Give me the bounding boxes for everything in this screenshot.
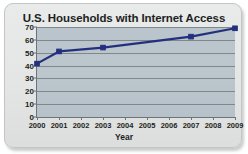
data-point-marker xyxy=(189,34,194,39)
x-tick-mark xyxy=(59,117,60,120)
y-tick-label: 60 xyxy=(25,35,34,44)
y-tick-label: 70 xyxy=(25,23,34,32)
x-tick-mark xyxy=(213,117,214,120)
data-point-marker xyxy=(233,26,238,31)
y-tick-label: 50 xyxy=(25,48,34,57)
x-tick-mark xyxy=(235,117,236,120)
y-tick-label: 40 xyxy=(25,61,34,70)
x-tick-mark xyxy=(103,117,104,120)
x-tick-label: 2000 xyxy=(29,121,46,130)
x-tick-label: 2007 xyxy=(183,121,200,130)
x-tick-label: 2005 xyxy=(139,121,156,130)
series-polyline xyxy=(37,28,235,63)
chart-title: U.S. Households with Internet Access xyxy=(5,12,243,24)
x-tick-label: 2003 xyxy=(95,121,112,130)
y-tick-label: 30 xyxy=(25,74,34,83)
y-tick-label: 20 xyxy=(25,87,34,96)
data-point-marker xyxy=(57,49,62,54)
x-tick-mark xyxy=(125,117,126,120)
x-tick-label: 2006 xyxy=(161,121,178,130)
data-point-marker xyxy=(35,61,40,66)
series-line-internet-access xyxy=(37,27,235,117)
x-tick-label: 2009 xyxy=(227,121,244,130)
x-tick-label: 2001 xyxy=(51,121,68,130)
series-markers xyxy=(35,26,238,66)
x-tick-mark xyxy=(147,117,148,120)
x-tick-mark xyxy=(37,117,38,120)
x-axis-label: Year xyxy=(5,132,243,142)
x-tick-label: 2008 xyxy=(205,121,222,130)
plot-area: 010203040506070 200020012002200320042005… xyxy=(36,27,235,118)
data-point-marker xyxy=(101,45,106,50)
x-tick-mark xyxy=(81,117,82,120)
x-tick-label: 2002 xyxy=(73,121,90,130)
x-tick-label: 2004 xyxy=(117,121,134,130)
chart-card: U.S. Households with Internet Access Per… xyxy=(4,3,242,148)
x-tick-mark xyxy=(191,117,192,120)
y-tick-label: 10 xyxy=(25,100,34,109)
x-tick-mark xyxy=(169,117,170,120)
